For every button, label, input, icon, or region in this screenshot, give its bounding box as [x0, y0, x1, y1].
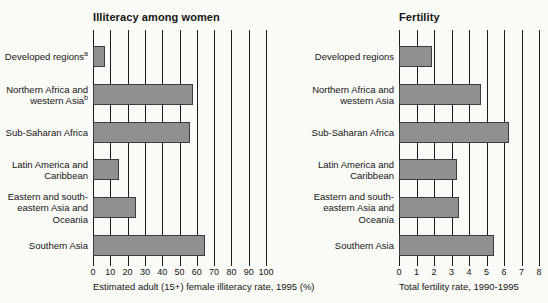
bar-sub-saharan-africa	[93, 122, 190, 143]
gridline-x-3	[452, 30, 453, 266]
category-label-latin-america-and-caribbean: Latin America andCaribbean	[278, 151, 394, 189]
fertility-x-axis-label: Total fertility rate, 1990-1995	[399, 281, 519, 292]
gridline-x-60	[197, 30, 198, 266]
gridline-x-70	[214, 30, 215, 266]
x-tick-7: 7	[519, 267, 524, 277]
bar-sub-saharan-africa	[399, 122, 509, 143]
gridline-x-2	[434, 30, 435, 266]
category-label-developed-regions: Developed regions	[278, 38, 394, 76]
x-tick-4: 4	[466, 267, 471, 277]
x-tick-10: 10	[105, 267, 115, 277]
bar-latin-america-and-caribbean	[399, 159, 457, 180]
illiteracy-plot-area	[93, 30, 266, 266]
dual-bar-chart-figure: Illiteracy among women Developed regions…	[0, 0, 548, 303]
x-tick-80: 80	[226, 267, 236, 277]
gridline-x-90	[249, 30, 250, 266]
fertility-chart-title: Fertility	[399, 11, 440, 23]
category-label-southern-asia: Southern Asia	[0, 227, 88, 265]
x-tick-60: 60	[192, 267, 202, 277]
x-tick-1: 1	[414, 267, 419, 277]
gridline-x-5	[487, 30, 488, 266]
illiteracy-x-axis-label: Estimated adult (15+) female illiteracy …	[93, 281, 315, 292]
category-label-northern-africa-and-western-asia: Northern Africa andwestern Asia	[278, 76, 394, 114]
x-tick-50: 50	[174, 267, 184, 277]
gridline-x-40	[162, 30, 163, 266]
bar-eastern-and-south-eastern-asia-and-oceania	[399, 197, 459, 218]
fertility-x-axis-ticks: 012345678	[399, 267, 539, 279]
gridline-x-20	[128, 30, 129, 266]
category-label-developed-regions: Developed regionsa	[0, 38, 88, 76]
x-tick-3: 3	[449, 267, 454, 277]
footnote-marker-b: b	[84, 94, 88, 101]
category-label-eastern-and-south-eastern-asia-and-oceania: Eastern and south-eastern Asia andOceani…	[278, 189, 394, 227]
x-tick-90: 90	[244, 267, 254, 277]
category-label-sub-saharan-africa: Sub-Saharan Africa	[0, 114, 88, 152]
category-label-southern-asia: Southern Asia	[278, 227, 394, 265]
bar-developed-regions	[399, 46, 432, 67]
category-label-northern-africa-and-western-asia: Northern Africa andwestern Asiab	[0, 76, 88, 114]
x-tick-20: 20	[123, 267, 133, 277]
illiteracy-chart-title: Illiteracy among women	[93, 11, 220, 23]
x-tick-70: 70	[209, 267, 219, 277]
bar-southern-asia	[93, 235, 205, 256]
gridline-x-10	[110, 30, 111, 266]
gridline-x-50	[180, 30, 181, 266]
gridline-x-7	[522, 30, 523, 266]
fertility-category-labels: Developed regionsNorthern Africa andwest…	[278, 30, 394, 266]
x-tick-5: 5	[484, 267, 489, 277]
gridline-x-8	[539, 30, 540, 266]
illiteracy-category-labels: Developed regionsaNorthern Africa andwes…	[0, 30, 88, 266]
category-label-latin-america-and-caribbean: Latin America andCaribbean	[0, 151, 88, 189]
bar-southern-asia	[399, 235, 494, 256]
gridline-x-30	[145, 30, 146, 266]
gridline-x-100	[266, 30, 267, 266]
category-label-sub-saharan-africa: Sub-Saharan Africa	[278, 114, 394, 152]
x-tick-2: 2	[431, 267, 436, 277]
footnote-marker-a: a	[84, 50, 88, 57]
bar-developed-regions	[93, 46, 105, 67]
bar-northern-africa-and-western-asia	[399, 84, 481, 105]
bar-northern-africa-and-western-asia	[93, 84, 193, 105]
bar-eastern-and-south-eastern-asia-and-oceania	[93, 197, 136, 218]
x-tick-6: 6	[501, 267, 506, 277]
x-tick-8: 8	[536, 267, 541, 277]
category-label-eastern-and-south-eastern-asia-and-oceania: Eastern and south-eastern Asia andOceani…	[0, 189, 88, 227]
fertility-plot-area	[399, 30, 539, 266]
gridline-x-6	[504, 30, 505, 266]
gridline-x-80	[231, 30, 232, 266]
gridline-x-4	[469, 30, 470, 266]
bar-latin-america-and-caribbean	[93, 159, 119, 180]
x-tick-0: 0	[396, 267, 401, 277]
x-tick-0: 0	[90, 267, 95, 277]
illiteracy-x-axis-ticks: 0102030405060708090100	[93, 267, 266, 279]
x-tick-40: 40	[157, 267, 167, 277]
x-tick-100: 100	[258, 267, 273, 277]
x-tick-30: 30	[140, 267, 150, 277]
